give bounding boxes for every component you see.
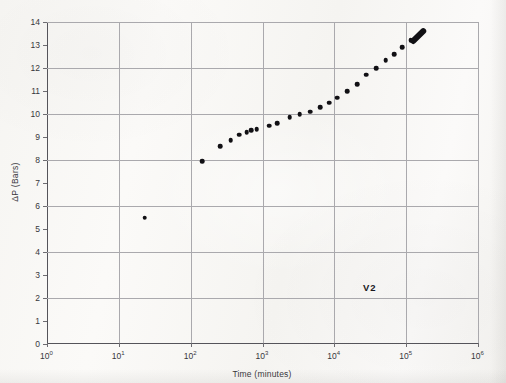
y-axis-tick-label: 11 bbox=[20, 87, 40, 96]
data-point bbox=[254, 127, 259, 132]
y-axis-tick-label: 6 bbox=[20, 202, 40, 211]
y-axis-tick-label: 7 bbox=[20, 179, 40, 188]
y-axis-title: ΔP (Bars) bbox=[10, 162, 20, 201]
x-axis-tick bbox=[47, 343, 48, 347]
x-axis-tick-label: 100 bbox=[40, 352, 53, 361]
data-point bbox=[374, 66, 379, 71]
y-axis-tick bbox=[43, 45, 47, 46]
scan-edge-shadow-right bbox=[490, 0, 506, 383]
data-point bbox=[275, 121, 280, 126]
data-point-cluster bbox=[409, 27, 427, 45]
gridline-vertical bbox=[334, 22, 335, 344]
y-axis-tick bbox=[43, 160, 47, 161]
y-axis-tick-label: 12 bbox=[20, 64, 40, 73]
series-annotation-label: V2 bbox=[363, 282, 377, 293]
y-axis-tick-label: 14 bbox=[20, 18, 40, 27]
y-axis-tick-label: 8 bbox=[20, 156, 40, 165]
y-axis-tick-label: 3 bbox=[20, 271, 40, 280]
y-axis-tick-label: 10 bbox=[20, 110, 40, 119]
data-point bbox=[392, 52, 397, 57]
data-point bbox=[364, 73, 369, 78]
x-axis-tick-label: 104 bbox=[327, 352, 340, 361]
y-axis-tick-label: 13 bbox=[20, 41, 40, 50]
data-point bbox=[400, 45, 405, 50]
x-axis-tick bbox=[263, 343, 264, 347]
y-axis-tick-label: 5 bbox=[20, 225, 40, 234]
data-point bbox=[297, 112, 302, 117]
y-axis-tick bbox=[43, 68, 47, 69]
y-axis-tick bbox=[43, 22, 47, 23]
y-axis-tick bbox=[43, 298, 47, 299]
data-point bbox=[345, 89, 350, 94]
data-point bbox=[218, 144, 223, 149]
y-axis-tick-label: 1 bbox=[20, 317, 40, 326]
x-axis-tick bbox=[191, 343, 192, 347]
y-axis-tick bbox=[43, 91, 47, 92]
data-point bbox=[267, 123, 272, 128]
data-point bbox=[327, 100, 332, 105]
data-point bbox=[228, 138, 233, 143]
gridline-vertical bbox=[263, 22, 264, 344]
y-axis-tick bbox=[43, 275, 47, 276]
y-axis-tick bbox=[43, 114, 47, 115]
y-axis-tick bbox=[43, 229, 47, 230]
data-point bbox=[143, 215, 148, 220]
y-axis-tick-label: 4 bbox=[20, 248, 40, 257]
chart-screenshot: ΔP (Bars) Time (minutes) 012345678910111… bbox=[0, 0, 506, 383]
plot-area: ΔP (Bars) Time (minutes) 012345678910111… bbox=[47, 22, 478, 344]
data-point bbox=[335, 96, 340, 101]
y-axis-tick-label: 2 bbox=[20, 294, 40, 303]
x-axis-title: Time (minutes) bbox=[232, 369, 291, 379]
x-axis-tick bbox=[334, 343, 335, 347]
data-point bbox=[288, 115, 293, 120]
x-axis-tick bbox=[119, 343, 120, 347]
gridline-vertical bbox=[191, 22, 192, 344]
y-axis-tick-label: 0 bbox=[20, 340, 40, 349]
data-point bbox=[249, 128, 254, 133]
x-axis-tick-label: 105 bbox=[399, 352, 412, 361]
y-axis-tick-label: 9 bbox=[20, 133, 40, 142]
data-point bbox=[200, 159, 205, 164]
data-point bbox=[308, 109, 313, 114]
gridline-vertical bbox=[119, 22, 120, 344]
x-axis-tick-label: 101 bbox=[112, 352, 125, 361]
data-point bbox=[383, 58, 388, 63]
data-point bbox=[318, 105, 323, 110]
y-axis-tick bbox=[43, 321, 47, 322]
x-axis-tick-label: 103 bbox=[256, 352, 269, 361]
data-point bbox=[237, 132, 242, 137]
y-axis-tick bbox=[43, 183, 47, 184]
x-axis-tick-label: 102 bbox=[184, 352, 197, 361]
x-axis-tick bbox=[478, 343, 479, 347]
y-axis-tick bbox=[43, 252, 47, 253]
gridline-vertical bbox=[478, 22, 479, 344]
x-axis-tick bbox=[406, 343, 407, 347]
y-axis-tick bbox=[43, 137, 47, 138]
x-axis-tick-label: 106 bbox=[471, 352, 484, 361]
data-point bbox=[355, 82, 360, 87]
y-axis-tick bbox=[43, 206, 47, 207]
gridline-vertical bbox=[406, 22, 407, 344]
y-axis-line bbox=[47, 22, 48, 344]
